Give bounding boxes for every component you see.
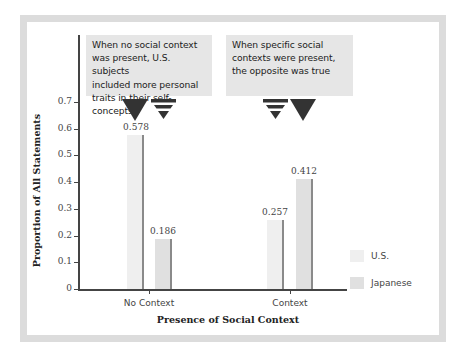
x-tick-label-no-context: No Context — [109, 298, 189, 308]
value-label: 0.412 — [284, 166, 324, 176]
callout-context: When specific social contexts were prese… — [226, 35, 353, 96]
value-label: 0.186 — [143, 226, 183, 236]
y-tick — [74, 129, 79, 130]
y-tick — [74, 209, 79, 210]
y-tick — [74, 102, 79, 103]
legend-item-us: U.S. — [350, 250, 389, 262]
x-tick — [149, 289, 150, 294]
y-tick — [74, 236, 79, 237]
y-tick-label: 0.4 — [42, 176, 72, 186]
y-tick — [74, 182, 79, 183]
solid-triangle-marker-icon — [290, 99, 318, 123]
y-tick — [74, 289, 79, 290]
y-tick-label: 0.1 — [42, 256, 72, 266]
callout-line: contexts were present, — [232, 51, 347, 64]
legend-swatch — [350, 250, 364, 262]
callout-line: When specific social — [232, 38, 347, 51]
x-axis-title: Presence of Social Context — [128, 314, 328, 325]
y-axis-title: Proportion of All Statements — [31, 91, 42, 291]
y-tick-label: 0.3 — [42, 203, 72, 213]
bar-japanese-no-context — [155, 239, 172, 289]
x-tick — [290, 289, 291, 294]
callout-no-context: When no social context was present, U.S.… — [86, 35, 212, 96]
solid-triangle-marker-icon — [122, 99, 150, 123]
legend-label: Japanese — [371, 278, 412, 288]
callout-line: included more personal — [92, 78, 206, 91]
y-tick-label: 0.6 — [42, 123, 72, 133]
legend-item-japanese: Japanese — [350, 277, 412, 289]
x-tick-label-context: Context — [250, 298, 330, 308]
bar-us-context — [267, 220, 284, 289]
striped-triangle-marker-icon — [263, 99, 289, 123]
callout-line: the opposite was true — [232, 64, 347, 77]
legend-label: U.S. — [371, 251, 389, 261]
bar-japanese-context — [296, 179, 313, 289]
y-tick — [74, 262, 79, 263]
y-tick-label: 0.7 — [42, 96, 72, 106]
y-axis — [78, 35, 80, 290]
x-axis — [78, 289, 347, 291]
y-tick-label: 0 — [42, 283, 72, 293]
y-tick-label: 0.5 — [42, 149, 72, 159]
y-tick — [74, 155, 79, 156]
callout-line: was present, U.S. subjects — [92, 51, 206, 77]
striped-triangle-marker-icon — [151, 99, 177, 123]
y-tick-label: 0.2 — [42, 230, 72, 240]
value-label: 0.578 — [116, 122, 156, 132]
legend-swatch — [350, 277, 364, 289]
callout-line: When no social context — [92, 38, 206, 51]
bar-us-no-context — [127, 135, 144, 289]
value-label: 0.257 — [255, 207, 295, 217]
